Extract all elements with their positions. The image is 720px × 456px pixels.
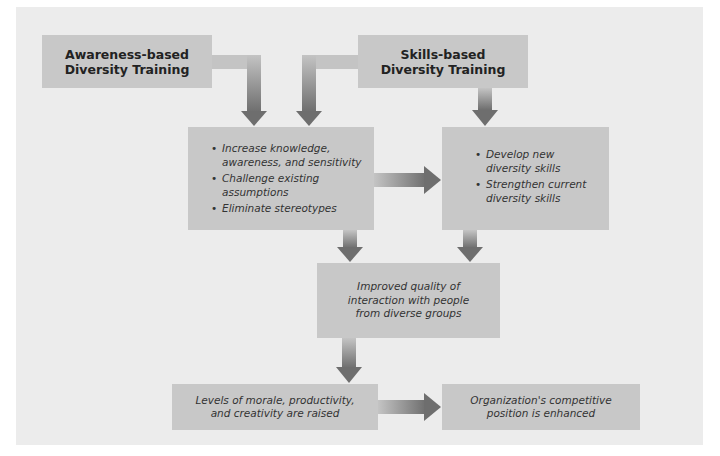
arrow-awareness-outcomes-to-skills-outcomes (374, 166, 441, 194)
awareness-training-line1: Awareness-based (65, 47, 189, 62)
awareness-training-box: Awareness-based Diversity Training (42, 35, 212, 88)
arrow-morale-to-competitive-position (378, 393, 441, 421)
awareness-outcome-item: Increase knowledge, awareness, and sensi… (222, 142, 364, 169)
arrow-skills-to-awareness-outcomes (296, 55, 358, 126)
skills-outcome-item: Develop new diversity skills (486, 148, 597, 175)
improved-interaction-text: Improved quality of interaction with peo… (345, 280, 472, 321)
arrow-awareness-to-awareness-outcomes (212, 55, 267, 126)
competitive-position-text: Organization's competitive position is e… (466, 394, 616, 421)
competitive-position-box: Organization's competitive position is e… (442, 384, 640, 430)
skills-outcome-item: Strengthen current diversity skills (486, 178, 597, 205)
skills-training-line2: Diversity Training (381, 62, 506, 77)
morale-raised-box: Levels of morale, productivity, and crea… (172, 384, 378, 430)
awareness-outcomes-box: Increase knowledge, awareness, and sensi… (188, 127, 374, 230)
arrow-skills-outcomes-to-interaction (457, 230, 483, 262)
awareness-outcome-item: Eliminate stereotypes (222, 202, 364, 216)
morale-raised-text: Levels of morale, productivity, and crea… (194, 394, 356, 421)
arrow-awareness-outcomes-to-interaction (337, 230, 363, 262)
arrow-skills-to-skills-outcomes (472, 88, 498, 126)
skills-training-line1: Skills-based (400, 47, 485, 62)
skills-outcomes-box: Develop new diversity skills Strengthen … (442, 127, 609, 230)
improved-interaction-box: Improved quality of interaction with peo… (317, 263, 500, 338)
awareness-outcome-item: Challenge existing assumptions (222, 172, 364, 199)
skills-outcomes-list: Develop new diversity skills Strengthen … (472, 148, 597, 205)
arrow-interaction-to-morale (336, 338, 362, 383)
awareness-outcomes-list: Increase knowledge, awareness, and sensi… (208, 142, 364, 216)
awareness-training-line2: Diversity Training (65, 62, 190, 77)
skills-training-box: Skills-based Diversity Training (358, 35, 528, 88)
